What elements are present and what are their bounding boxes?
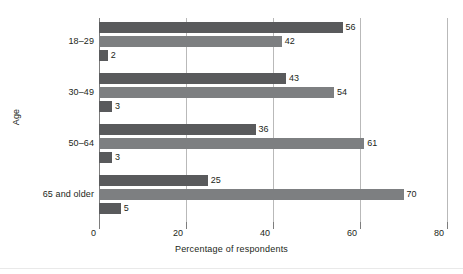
bar [99, 152, 112, 163]
bar-value-label: 61 [364, 138, 377, 149]
bar-row: 36 [99, 124, 447, 135]
bar-row: 56 [99, 22, 447, 33]
bar [99, 138, 364, 149]
bar-row: 42 [99, 36, 447, 47]
bottom-rule [0, 268, 463, 269]
tick-mark-0 [99, 222, 100, 229]
tick-mark-60 [360, 222, 361, 229]
bar-value-label: 54 [334, 87, 347, 98]
bar-row: 70 [99, 189, 447, 200]
bar-row: 61 [99, 138, 447, 149]
bar [99, 36, 282, 47]
tick-label-20: 20 [173, 228, 186, 238]
x-axis-title: Percentage of respondents [0, 244, 463, 254]
bar-value-label: 2 [108, 50, 116, 61]
bar [99, 87, 334, 98]
category-label: 18–29 [24, 36, 94, 46]
category-label: 50–64 [24, 138, 94, 148]
bar-value-label: 70 [404, 189, 417, 200]
bar [99, 175, 208, 186]
bar-row: 3 [99, 152, 447, 163]
bar-value-label: 25 [208, 175, 221, 186]
bar-row: 25 [99, 175, 447, 186]
category-label: 30–49 [24, 87, 94, 97]
tick-label-60: 60 [347, 228, 360, 238]
bar-value-label: 3 [112, 101, 120, 112]
category-axis-labels: 18–2930–4950–6465 and older [24, 18, 94, 222]
bar-value-label: 56 [343, 22, 356, 33]
bar-row: 5 [99, 203, 447, 214]
bar-value-label: 43 [286, 73, 299, 84]
bar-value-label: 36 [256, 124, 269, 135]
bar-value-label: 42 [282, 36, 295, 47]
gridline-x-80 [447, 18, 448, 222]
bar-value-label: 3 [112, 152, 120, 163]
bar [99, 50, 108, 61]
category-label: 65 and older [24, 189, 94, 199]
tick-mark-20 [186, 222, 187, 229]
tick-label-0: 0 [91, 228, 99, 238]
bar-chart: Age 18–2930–4950–6465 and older 56422435… [0, 0, 463, 274]
bar [99, 189, 404, 200]
bar-row: 43 [99, 73, 447, 84]
plot-area: 56422435433661325705 [99, 18, 447, 222]
bar [99, 203, 121, 214]
bar [99, 124, 256, 135]
bar [99, 22, 343, 33]
bar-row: 2 [99, 50, 447, 61]
bar-row: 3 [99, 101, 447, 112]
tick-mark-40 [273, 222, 274, 229]
tick-label-80: 80 [434, 228, 447, 238]
bar-row: 54 [99, 87, 447, 98]
x-axis-ticks: 020406080 [99, 222, 447, 238]
tick-label-40: 40 [260, 228, 273, 238]
tick-mark-80 [447, 222, 448, 229]
bar [99, 101, 112, 112]
bar [99, 73, 286, 84]
bar-value-label: 5 [121, 203, 129, 214]
y-axis-title: Age [11, 87, 21, 147]
